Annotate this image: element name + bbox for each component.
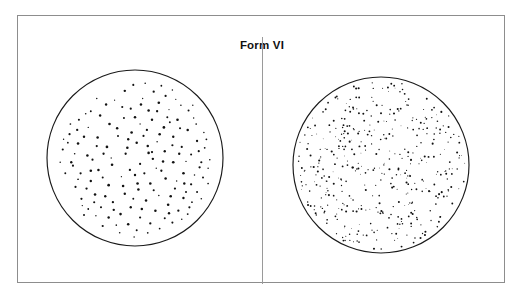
stipple-dot xyxy=(446,196,447,197)
stipple-dot xyxy=(323,168,324,169)
stipple-dot xyxy=(301,181,303,183)
stipple-dot xyxy=(107,216,109,218)
stipple-dot xyxy=(83,214,85,216)
stipple-dot xyxy=(87,208,89,210)
stipple-dot xyxy=(181,218,183,220)
stipple-dot xyxy=(406,234,407,235)
stipple-dot xyxy=(325,108,327,110)
stipple-dot xyxy=(358,112,360,114)
stipple-dot xyxy=(458,188,459,189)
stipple-dot xyxy=(326,149,327,150)
stipple-dot xyxy=(400,108,402,110)
stipple-dot xyxy=(132,198,134,200)
stipple-dot xyxy=(298,160,299,161)
stipple-dot xyxy=(191,201,193,203)
stipple-dot xyxy=(102,225,104,227)
stipple-dot xyxy=(458,142,460,144)
stipple-dot xyxy=(311,135,312,136)
stipple-dot xyxy=(88,127,89,128)
stipple-dot xyxy=(357,168,359,170)
stipple-dot xyxy=(77,142,80,145)
stipple-dot xyxy=(326,219,328,221)
stipple-dot xyxy=(178,153,180,155)
stipple-dot xyxy=(156,168,157,169)
stipple-dot xyxy=(361,141,362,142)
stipple-dot xyxy=(376,207,377,208)
stipple-dot xyxy=(439,216,441,218)
stipple-dot xyxy=(377,230,378,231)
stipple-dot xyxy=(127,138,129,140)
stipple-dot xyxy=(413,242,415,244)
stipple-dot xyxy=(414,210,415,211)
stipple-dot xyxy=(337,157,338,158)
stipple-dot xyxy=(313,166,315,168)
stipple-dot xyxy=(182,172,185,175)
stipple-dot xyxy=(436,174,437,175)
stipple-dot xyxy=(362,113,364,115)
stipple-dot xyxy=(345,210,347,212)
stipple-dot xyxy=(424,234,426,236)
stipple-dot xyxy=(406,178,407,179)
stipple-dot xyxy=(83,136,85,138)
stipple-dot xyxy=(448,115,449,116)
stipple-dot xyxy=(445,170,446,171)
stipple-dot xyxy=(421,160,423,162)
stipple-dot xyxy=(145,199,148,202)
stipple-dot xyxy=(423,129,424,130)
stipple-dot xyxy=(171,222,173,224)
stipple-dot xyxy=(358,230,360,232)
stipple-dot xyxy=(343,137,345,139)
stipple-dot xyxy=(365,189,367,191)
stipple-dot xyxy=(386,121,387,122)
stipple-dot xyxy=(172,161,175,164)
stipple-dot xyxy=(388,91,389,92)
stipple-dot xyxy=(431,117,432,118)
stipple-dot xyxy=(401,246,403,248)
stipple-dot xyxy=(406,194,407,195)
stipple-dot xyxy=(448,126,450,128)
stipple-dot xyxy=(456,151,458,153)
stipple-dot xyxy=(373,88,374,89)
stipple-dot xyxy=(327,102,329,104)
stipple-dot xyxy=(366,235,368,237)
stipple-dot xyxy=(368,169,369,170)
stipple-dot xyxy=(316,134,317,135)
stipple-dot xyxy=(337,98,338,99)
stipple-dot xyxy=(359,131,360,132)
stipple-dot xyxy=(393,85,395,87)
stipple-dot xyxy=(379,212,381,214)
stipple-dot xyxy=(340,178,342,180)
stipple-dot xyxy=(376,239,377,240)
stipple-dot xyxy=(344,204,345,205)
stipple-dot xyxy=(379,202,381,204)
stipple-dot xyxy=(414,237,416,239)
stipple-dot xyxy=(80,198,82,200)
stipple-dot xyxy=(395,233,397,235)
stipple-dot xyxy=(201,198,203,200)
stipple-dot xyxy=(127,223,130,226)
stipple-dot xyxy=(339,140,341,142)
stipple-dot xyxy=(355,170,356,171)
stipple-dot xyxy=(319,185,320,186)
stipple-dot xyxy=(152,158,154,160)
stipple-dot xyxy=(186,129,189,132)
stipple-dot xyxy=(116,224,118,226)
stipple-dot xyxy=(424,155,426,157)
stipple-dot xyxy=(102,177,104,179)
stipple-dot xyxy=(136,182,139,185)
stipple-dot xyxy=(151,151,153,153)
stipple-dot xyxy=(404,93,406,95)
stipple-dot xyxy=(343,240,345,242)
stipple-dot xyxy=(397,216,399,218)
stipple-dot xyxy=(356,240,357,241)
stipple-dot xyxy=(420,158,421,159)
stipple-dot xyxy=(463,181,465,183)
stipple-dot xyxy=(320,156,321,157)
stipple-dot xyxy=(423,123,424,124)
stipple-dot xyxy=(352,166,354,168)
stipple-dot xyxy=(343,124,345,126)
stipple-dot xyxy=(371,230,372,231)
stipple-dot xyxy=(341,209,343,211)
stipple-dot xyxy=(307,201,308,202)
stipple-dot xyxy=(316,184,318,186)
